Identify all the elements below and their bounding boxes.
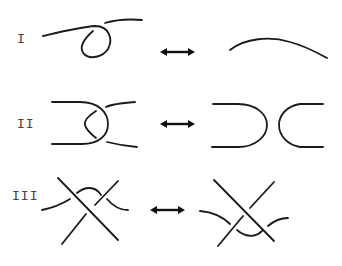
move-iii-right-strand-below [200, 180, 288, 246]
double-arrow-icon [150, 206, 185, 214]
move-ii-left-crossings [52, 102, 137, 147]
reidemeister-diagram [0, 0, 342, 266]
double-arrow-icon [160, 48, 195, 56]
move-iii-left-strand-above [42, 178, 128, 244]
move-i-left-twist [43, 20, 142, 58]
move-ii-right-arcs [212, 104, 323, 147]
double-arrow-icon [160, 120, 195, 128]
move-i-right-arc [230, 39, 327, 58]
